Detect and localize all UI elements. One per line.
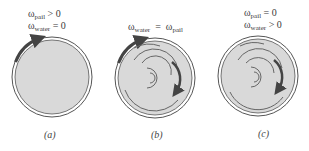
omega-symbol: ω — [128, 21, 135, 32]
label-c-line2: ωwater > 0 — [244, 20, 282, 33]
relation: > 0 — [48, 8, 61, 19]
omega-symbol: ω — [244, 19, 251, 30]
pail-a — [12, 37, 92, 117]
subscript: pail — [251, 12, 262, 20]
caption-c: (c) — [258, 128, 269, 139]
relation: = — [155, 21, 161, 32]
subscript: water — [251, 24, 267, 32]
subscript: pail — [172, 26, 183, 34]
relation: = 0 — [53, 20, 66, 31]
relation: > 0 — [269, 19, 282, 30]
caption-a: (a) — [44, 129, 56, 140]
omega-symbol: ω — [28, 8, 35, 19]
subscript: water — [135, 26, 151, 34]
omega-symbol: ω — [244, 7, 251, 18]
omega-symbol: ω — [28, 20, 35, 31]
subscript: water — [35, 25, 51, 33]
subscript: pail — [35, 13, 46, 21]
label-a-line2: ωwater = 0 — [28, 21, 66, 34]
pail-c — [218, 36, 298, 116]
label-b-line1: ωwater = ωpail — [128, 22, 183, 35]
pail-b — [115, 38, 195, 118]
caption-b: (b) — [151, 129, 163, 140]
relation: = 0 — [264, 7, 277, 18]
